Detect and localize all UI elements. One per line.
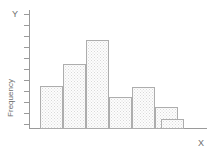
histogram-bar bbox=[40, 86, 63, 129]
bar-series bbox=[0, 0, 215, 153]
histogram-figure: Y X Frequency bbox=[0, 0, 215, 153]
histogram-bar bbox=[132, 87, 155, 129]
y-axis-letter: Y bbox=[12, 10, 19, 19]
histogram-bar bbox=[86, 40, 109, 129]
x-axis-letter: X bbox=[198, 139, 205, 148]
histogram-bar bbox=[109, 97, 132, 129]
histogram-bar bbox=[63, 64, 86, 129]
y-axis-title: Frequency bbox=[7, 65, 15, 131]
histogram-bar bbox=[161, 119, 184, 129]
